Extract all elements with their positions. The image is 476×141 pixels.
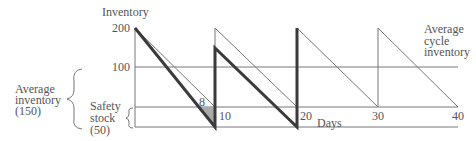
y-axis-title: Inventory [102,6,149,19]
y-tick-200: 200 [112,22,130,35]
average-inventory-brace [67,69,82,129]
safety-stock-brace [126,108,133,128]
x-tick-30: 30 [372,110,384,123]
actual-inventory-series [135,28,297,127]
x-tick-8: 8 [199,96,205,109]
avg-inventory-label-3: (150) [15,105,41,118]
x-tick-10: 10 [219,110,231,123]
x-tick-20: 20 [300,110,312,123]
safety-stock-label-3: (50) [90,124,110,137]
x-axis-title: Days [317,117,342,130]
x-tick-40: 40 [452,110,464,123]
avg-cycle-label-3: inventory [424,46,470,59]
inventory-chart [0,0,476,141]
y-tick-100: 100 [112,61,130,74]
